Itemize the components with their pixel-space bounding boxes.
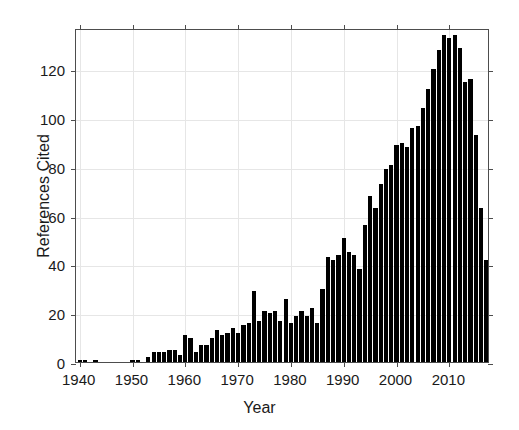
bar xyxy=(468,79,472,362)
bar xyxy=(241,325,245,362)
bar xyxy=(210,338,214,362)
y-axis-tick xyxy=(71,71,76,72)
y-tick-label: 120 xyxy=(0,62,65,79)
bar xyxy=(474,135,478,362)
y-tick-label: 20 xyxy=(0,306,65,323)
gridline-vertical xyxy=(133,30,134,362)
gridline-vertical xyxy=(185,30,186,362)
bar xyxy=(294,316,298,362)
x-axis-tick xyxy=(238,362,239,367)
y-axis-tick xyxy=(71,364,76,365)
bar xyxy=(453,35,457,362)
bar xyxy=(284,299,288,362)
bar xyxy=(162,352,166,362)
bar xyxy=(252,291,256,362)
bar xyxy=(157,352,161,362)
x-tick-label: 1950 xyxy=(115,371,148,388)
bar xyxy=(289,323,293,362)
x-axis-tick xyxy=(449,362,450,367)
bar xyxy=(437,50,441,362)
bar xyxy=(347,252,351,362)
x-axis-tick-top xyxy=(344,25,345,30)
bar xyxy=(183,335,187,362)
bar xyxy=(421,108,425,362)
bar xyxy=(416,126,420,362)
bar xyxy=(93,360,97,362)
x-tick-label: 2010 xyxy=(432,371,465,388)
bar xyxy=(384,169,388,362)
bar xyxy=(273,311,277,362)
bar xyxy=(78,360,82,362)
bar xyxy=(389,165,393,362)
bar xyxy=(167,350,171,362)
y-axis-tick-right xyxy=(488,364,493,365)
bar xyxy=(463,82,467,362)
gridline-vertical xyxy=(291,30,292,362)
y-tick-label: 40 xyxy=(0,257,65,274)
y-axis-tick-right xyxy=(488,315,493,316)
bar xyxy=(336,255,340,362)
bar xyxy=(484,260,488,362)
gridline-vertical xyxy=(80,30,81,362)
x-axis-tick-top xyxy=(238,25,239,30)
bar xyxy=(262,311,266,362)
bar xyxy=(394,145,398,362)
y-axis-tick-right xyxy=(488,169,493,170)
bar xyxy=(305,316,309,362)
y-axis-tick-right xyxy=(488,120,493,121)
bar xyxy=(458,48,462,362)
bar xyxy=(310,308,314,362)
bar xyxy=(231,328,235,362)
bar xyxy=(447,38,451,362)
bar xyxy=(320,289,324,362)
gridline-vertical xyxy=(238,30,239,362)
references-cited-bar-chart: References Cited 020406080100120 1940195… xyxy=(0,0,519,430)
x-axis-tick xyxy=(291,362,292,367)
x-axis-tick xyxy=(80,362,81,367)
bar xyxy=(188,338,192,362)
bar xyxy=(442,35,446,362)
bar xyxy=(405,147,409,362)
bar xyxy=(373,208,377,362)
x-axis-tick xyxy=(133,362,134,367)
x-axis-tick-top xyxy=(291,25,292,30)
bar xyxy=(204,345,208,362)
bar xyxy=(225,333,229,362)
x-axis-tick-top xyxy=(449,25,450,30)
bar xyxy=(220,335,224,362)
y-axis-tick xyxy=(71,315,76,316)
bar xyxy=(363,225,367,362)
bar xyxy=(299,311,303,362)
x-axis-tick-top xyxy=(397,25,398,30)
bar xyxy=(326,257,330,362)
bar xyxy=(194,352,198,362)
x-tick-label: 1970 xyxy=(220,371,253,388)
bar xyxy=(342,238,346,362)
bar xyxy=(357,269,361,362)
bar xyxy=(431,69,435,362)
bar xyxy=(247,323,251,362)
bar xyxy=(146,357,150,362)
gridline-horizontal xyxy=(76,71,488,72)
y-axis-tick-right xyxy=(488,71,493,72)
bar xyxy=(178,355,182,362)
y-tick-label: 60 xyxy=(0,208,65,225)
bar xyxy=(410,128,414,362)
bar xyxy=(315,323,319,362)
x-axis-tick xyxy=(397,362,398,367)
bar xyxy=(331,260,335,362)
y-axis-tick-right xyxy=(488,266,493,267)
x-tick-label: 1960 xyxy=(168,371,201,388)
bar xyxy=(278,321,282,362)
bar xyxy=(379,184,383,362)
x-axis-tick-top xyxy=(80,25,81,30)
bar xyxy=(136,360,140,362)
x-axis-tick-top xyxy=(133,25,134,30)
y-axis-tick-right xyxy=(488,218,493,219)
bar xyxy=(257,321,261,362)
x-axis-tick xyxy=(344,362,345,367)
bar xyxy=(400,143,404,362)
y-axis-tick xyxy=(71,120,76,121)
y-axis-tick xyxy=(71,218,76,219)
bar xyxy=(130,360,134,362)
